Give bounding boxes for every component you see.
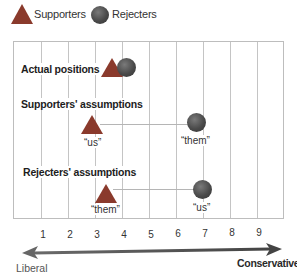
axis-tick-5: 5	[144, 229, 158, 240]
axis-tick-1: 1	[36, 229, 50, 240]
rejecters-them-label: “them”	[91, 204, 120, 215]
supporters-connector-line	[100, 124, 196, 125]
rejecters-circle-icon	[91, 6, 109, 24]
supporters-us-triangle-icon	[81, 115, 103, 134]
grid-line	[176, 42, 177, 218]
axis-tick-4: 4	[117, 229, 131, 240]
legend-rejecters-label: Rejecters	[112, 8, 157, 20]
supporters-us-label: “us”	[84, 137, 101, 148]
rejecters-them-triangle-icon	[95, 184, 117, 203]
row-label-rejecters-assumptions: Rejecters' assumptions	[22, 166, 137, 178]
rejecters-actual-circle-icon	[117, 58, 136, 77]
grid-line	[149, 42, 150, 218]
axis-tick-8: 8	[225, 227, 239, 238]
rejecters-connector-line	[113, 189, 197, 190]
axis-tick-3: 3	[90, 229, 104, 240]
axis-tick-6: 6	[171, 228, 185, 239]
legend: Supporters Rejecters	[0, 0, 297, 28]
supporters-triangle-icon	[11, 4, 33, 24]
axis-tick-7: 7	[198, 228, 212, 239]
supporters-them-circle-icon	[187, 113, 206, 132]
legend-supporters-label: Supporters	[34, 8, 86, 20]
rejecters-us-label: “us”	[193, 202, 210, 213]
grid-line	[230, 42, 231, 218]
rejecters-us-circle-icon	[193, 180, 212, 199]
axis-label-conservative: Conservative	[237, 257, 297, 269]
grid-line	[257, 42, 258, 218]
axis-label-liberal: Liberal	[16, 262, 48, 274]
row-label-actual-positions: Actual positions	[20, 63, 100, 75]
axis-tick-2: 2	[63, 229, 77, 240]
supporters-them-label: “them”	[181, 135, 210, 146]
row-label-supporters-assumptions: Supporters' assumptions	[20, 98, 144, 110]
axis-tick-9: 9	[252, 227, 266, 238]
